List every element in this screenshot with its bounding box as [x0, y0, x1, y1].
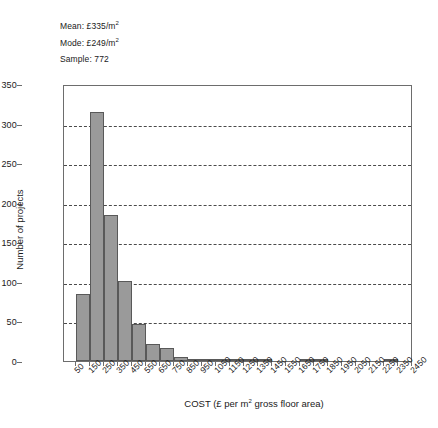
annotation-mode: Mode: £249/m2 — [60, 39, 119, 48]
bar — [132, 324, 146, 361]
bar — [76, 294, 90, 361]
annotation-sample-value: 772 — [94, 54, 108, 64]
statistics-annotations: Mean: £335/m2 Mode: £249/m2 Sample: 772 — [60, 22, 119, 72]
annotation-sample-label: Sample: — [60, 54, 92, 64]
x-axis-title-prefix: COST (£ per m — [184, 398, 248, 409]
annotation-sample: Sample: 772 — [60, 55, 119, 64]
bar-series — [64, 86, 411, 361]
annotation-mean-exponent: 2 — [116, 20, 119, 26]
y-axis-title: Number of projects — [14, 155, 25, 305]
bar — [90, 112, 104, 361]
plot-area — [63, 85, 412, 362]
y-axis-title-wrap: Number of projects — [0, 0, 63, 428]
annotation-mode-value: £249/m — [87, 38, 116, 48]
annotation-mean-value: £335/m — [87, 21, 116, 31]
histogram-figure: Mean: £335/m2 Mode: £249/m2 Sample: 772 … — [0, 0, 438, 428]
annotation-mean-label: Mean: — [60, 21, 84, 31]
x-axis-title-suffix: gross floor area) — [252, 398, 324, 409]
x-axis-title: COST (£ per m2 gross floor area) — [0, 398, 438, 409]
bar — [118, 281, 132, 361]
annotation-mode-exponent: 2 — [116, 37, 119, 43]
annotation-mode-label: Mode: — [60, 38, 84, 48]
bar — [104, 215, 118, 361]
annotation-mean: Mean: £335/m2 — [60, 22, 119, 31]
